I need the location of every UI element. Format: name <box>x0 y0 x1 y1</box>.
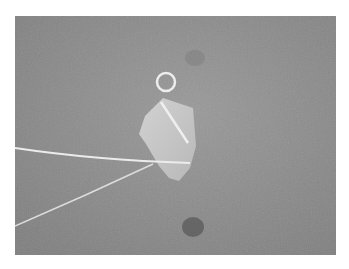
pendant-photo <box>15 16 336 255</box>
photo <box>15 16 336 255</box>
